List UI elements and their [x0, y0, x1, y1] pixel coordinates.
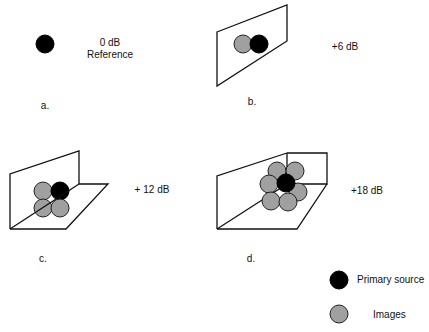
panel-a-label: a. [41, 100, 49, 111]
panel-b-gain: +6 dB [332, 41, 358, 52]
image-source-icon [279, 193, 297, 211]
image-source-icon [260, 175, 278, 193]
panel-b-label: b. [248, 96, 256, 107]
legend-primary-source-label: Primary source [357, 274, 424, 285]
legend-images-label: Images [373, 309, 406, 320]
primary-source-icon [36, 35, 54, 53]
image-source-icon [51, 199, 69, 217]
panel-a-note: Reference [87, 49, 133, 60]
panel-a-figure [36, 35, 54, 53]
legend-icons [330, 271, 348, 323]
image-source-icon [262, 192, 280, 210]
panel-c-label: c. [39, 253, 47, 264]
primary-source-icon [51, 182, 69, 200]
primary-source-icon [277, 174, 295, 192]
legend-primary-source-icon [330, 271, 348, 289]
panel-b-figure [217, 5, 287, 86]
panel-c-figure [10, 151, 108, 229]
legend-image-icon [330, 305, 348, 323]
primary-source-icon [250, 35, 268, 53]
image-source-icon [234, 35, 252, 53]
panel-d-label: d. [247, 253, 255, 264]
panel-d-figure [217, 153, 327, 229]
panel-d-gain: +18 dB [351, 185, 383, 196]
panel-c-gain: + 12 dB [135, 184, 170, 195]
panel-a-gain: 0 dB [100, 37, 121, 48]
image-source-icon [34, 182, 52, 200]
